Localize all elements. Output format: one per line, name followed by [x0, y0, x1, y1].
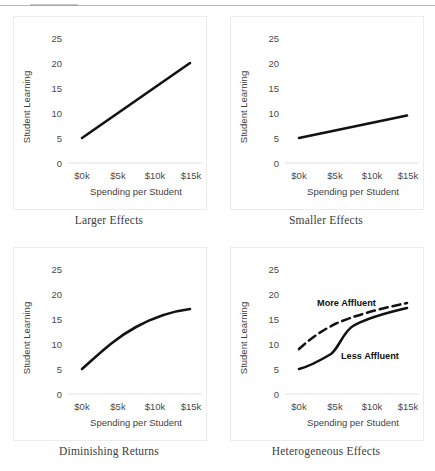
x-tick-10k: $10k — [362, 401, 383, 412]
x-axis-title: Spending per Student — [90, 417, 182, 428]
panel-caption-diminishing-returns: Diminishing Returns — [9, 445, 209, 457]
top-divider-accent — [30, 4, 78, 6]
panel-caption-heterogeneous-effects: Heterogeneous Effects — [226, 445, 426, 457]
x-tick-10k: $10k — [145, 170, 166, 181]
y-tick-15: 15 — [51, 314, 62, 325]
chart-svg-smaller-effects: 25 20 15 10 5 0 Student Learning $0k $5k… — [231, 17, 423, 209]
chart-panel-heterogeneous-effects: 25 20 15 10 5 0 Student Learning More Af… — [226, 247, 426, 471]
y-tick-5: 5 — [57, 364, 62, 375]
y-tick-25: 25 — [268, 264, 279, 275]
y-tick-0: 0 — [274, 158, 279, 169]
y-tick-20: 20 — [268, 289, 279, 300]
y-tick-15: 15 — [268, 314, 279, 325]
y-tick-5: 5 — [274, 364, 279, 375]
chart-svg-heterogeneous-effects: 25 20 15 10 5 0 Student Learning More Af… — [231, 248, 423, 440]
plot-area-larger-effects: 25 20 15 10 5 0 Student Learning $0k $5k… — [13, 16, 207, 210]
y-tick-20: 20 — [51, 58, 62, 69]
x-tick-5k: $5k — [327, 401, 343, 412]
x-tick-15k: $15k — [181, 170, 202, 181]
y-tick-0: 0 — [57, 389, 62, 400]
y-tick-5: 5 — [57, 133, 62, 144]
chart-svg-larger-effects: 25 20 15 10 5 0 Student Learning $0k $5k… — [14, 17, 206, 209]
y-axis-title: Student Learning — [21, 302, 32, 374]
y-tick-0: 0 — [57, 158, 62, 169]
panel-caption-larger-effects: Larger Effects — [9, 214, 209, 226]
x-axis-title: Spending per Student — [90, 186, 182, 197]
y-tick-10: 10 — [268, 339, 279, 350]
y-tick-20: 20 — [268, 58, 279, 69]
y-tick-15: 15 — [268, 83, 279, 94]
series-student-learning — [299, 116, 407, 139]
x-tick-0k: $0k — [291, 170, 307, 181]
x-tick-5k: $5k — [110, 401, 126, 412]
chart-grid: 25 20 15 10 5 0 Student Learning $0k $5k… — [0, 10, 435, 471]
chart-panel-larger-effects: 25 20 15 10 5 0 Student Learning $0k $5k… — [9, 16, 209, 241]
x-tick-15k: $15k — [398, 401, 419, 412]
x-tick-15k: $15k — [398, 170, 419, 181]
chart-panel-diminishing-returns: 25 20 15 10 5 0 Student Learning $0k $5k… — [9, 247, 209, 471]
x-tick-0k: $0k — [291, 401, 307, 412]
y-axis-title: Student Learning — [21, 71, 32, 143]
x-tick-0k: $0k — [74, 170, 90, 181]
series-student-learning — [82, 63, 190, 138]
x-tick-0k: $0k — [74, 401, 90, 412]
y-tick-0: 0 — [274, 389, 279, 400]
y-tick-25: 25 — [268, 33, 279, 44]
y-tick-10: 10 — [51, 108, 62, 119]
x-tick-10k: $10k — [145, 401, 166, 412]
label-less-affluent: Less Affluent — [341, 351, 399, 361]
plot-area-heterogeneous-effects: 25 20 15 10 5 0 Student Learning More Af… — [230, 247, 424, 441]
y-tick-25: 25 — [51, 264, 62, 275]
chart-svg-diminishing-returns: 25 20 15 10 5 0 Student Learning $0k $5k… — [14, 248, 206, 440]
y-tick-10: 10 — [268, 108, 279, 119]
y-axis-title: Student Learning — [238, 302, 249, 374]
x-axis-title: Spending per Student — [307, 417, 399, 428]
y-axis-title: Student Learning — [238, 71, 249, 143]
y-tick-5: 5 — [274, 133, 279, 144]
series-student-learning — [82, 309, 190, 369]
y-tick-25: 25 — [51, 33, 62, 44]
x-tick-5k: $5k — [110, 170, 126, 181]
y-tick-15: 15 — [51, 83, 62, 94]
y-tick-20: 20 — [51, 289, 62, 300]
label-more-affluent: More Affluent — [317, 298, 376, 308]
x-tick-15k: $15k — [181, 401, 202, 412]
plot-area-smaller-effects: 25 20 15 10 5 0 Student Learning $0k $5k… — [230, 16, 424, 210]
y-tick-10: 10 — [51, 339, 62, 350]
chart-panel-smaller-effects: 25 20 15 10 5 0 Student Learning $0k $5k… — [226, 16, 426, 241]
plot-area-diminishing-returns: 25 20 15 10 5 0 Student Learning $0k $5k… — [13, 247, 207, 441]
x-tick-5k: $5k — [327, 170, 343, 181]
panel-caption-smaller-effects: Smaller Effects — [226, 214, 426, 226]
x-tick-10k: $10k — [362, 170, 383, 181]
x-axis-title: Spending per Student — [307, 186, 399, 197]
